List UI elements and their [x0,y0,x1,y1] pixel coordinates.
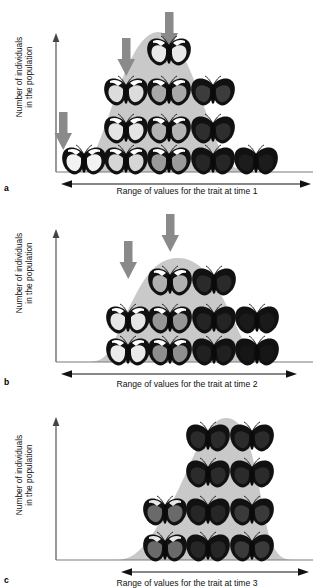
y-axis-arrowhead-c [53,417,60,426]
range-arrow-left-c [121,568,132,576]
butterfly-a-r4-c5 [234,145,278,174]
panel-letter-c: c [4,575,9,585]
panel-a: Number of individuals in the population [0,0,321,196]
butterfly-a-r2-c3 [191,76,235,105]
butterfly-c-r1-c2 [230,422,274,451]
x-axis-label-b: Range of values for the trait at time 2 [58,379,316,389]
plot-area-a [0,0,321,196]
butterfly-c-r3-c1 [143,496,187,525]
butterfly-b-r2-c4 [235,304,279,333]
plot-area-c [0,392,321,588]
butterfly-a-r3-c3 [191,114,235,143]
selection-arrow-1-a [55,112,73,150]
butterfly-b-r2-c1 [106,304,150,333]
y-axis-arrowhead-b [53,229,60,238]
panel-b: Number of individuals in the population [0,196,321,392]
y-axis-arrowhead-a [53,33,60,42]
range-arrow-right-c [298,568,309,576]
range-arrow-left-b [61,370,72,378]
panel-letter-a: a [4,183,9,193]
range-arrow-right-b [286,370,297,378]
panel-c: Number of individuals in the population [0,392,321,588]
selection-arrow-2-b [162,214,180,252]
butterfly-b-r1-c2 [192,266,236,295]
butterfly-c-r1-c1 [186,422,230,451]
butterfly-b-r3-c4 [235,336,279,365]
x-axis-label-c: Range of values for the trait at time 3 [58,578,316,588]
butterfly-a-r4-c1 [62,145,106,174]
plot-area-b [0,196,321,392]
panel-letter-b: b [4,377,9,387]
selection-arrow-1-b [120,241,138,279]
x-axis-label-a: Range of values for the trait at time 1 [58,186,316,196]
